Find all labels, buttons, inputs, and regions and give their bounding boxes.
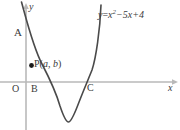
equation-term2: −5x+4 bbox=[116, 9, 144, 20]
x-axis-label: x bbox=[168, 83, 172, 93]
parabola-figure: A O B C y x P(a, b) y=x2−5x+4 bbox=[0, 0, 180, 130]
x-axis-arrow bbox=[172, 79, 178, 85]
point-p-comma: , bbox=[48, 58, 51, 69]
point-label-a: A bbox=[14, 27, 22, 38]
origin-label: O bbox=[12, 84, 19, 94]
y-axis-arrow bbox=[23, 3, 29, 9]
y-axis-label: y bbox=[29, 2, 33, 12]
point-label-b: B bbox=[31, 84, 38, 94]
point-label-c: C bbox=[87, 83, 94, 93]
figure-canvas bbox=[0, 0, 180, 130]
point-p-close-paren: ) bbox=[58, 58, 61, 69]
point-label-p: P(a, b) bbox=[34, 59, 61, 69]
equation-label: y=x2−5x+4 bbox=[98, 9, 144, 20]
